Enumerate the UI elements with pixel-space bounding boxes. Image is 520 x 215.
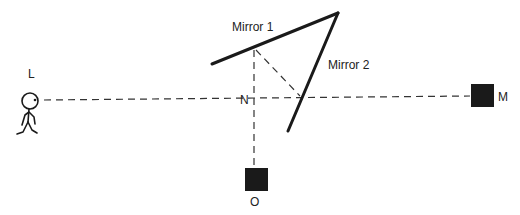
object-o-square	[245, 168, 268, 191]
mirror-2-label: Mirror 2	[328, 58, 370, 72]
observer-label: L	[28, 67, 35, 81]
object-m-square	[471, 84, 494, 107]
mirror-diagram: Mirror 1 Mirror 2 N L M O	[0, 0, 520, 215]
object-o-label: O	[250, 195, 259, 209]
line-of-sight-L-to-M	[44, 96, 470, 100]
object-m-label: M	[498, 90, 508, 104]
mirror-1-label: Mirror 1	[232, 20, 274, 34]
observer-figure-icon	[17, 93, 38, 134]
normal-label: N	[240, 93, 249, 107]
reflected-ray	[256, 50, 300, 96]
